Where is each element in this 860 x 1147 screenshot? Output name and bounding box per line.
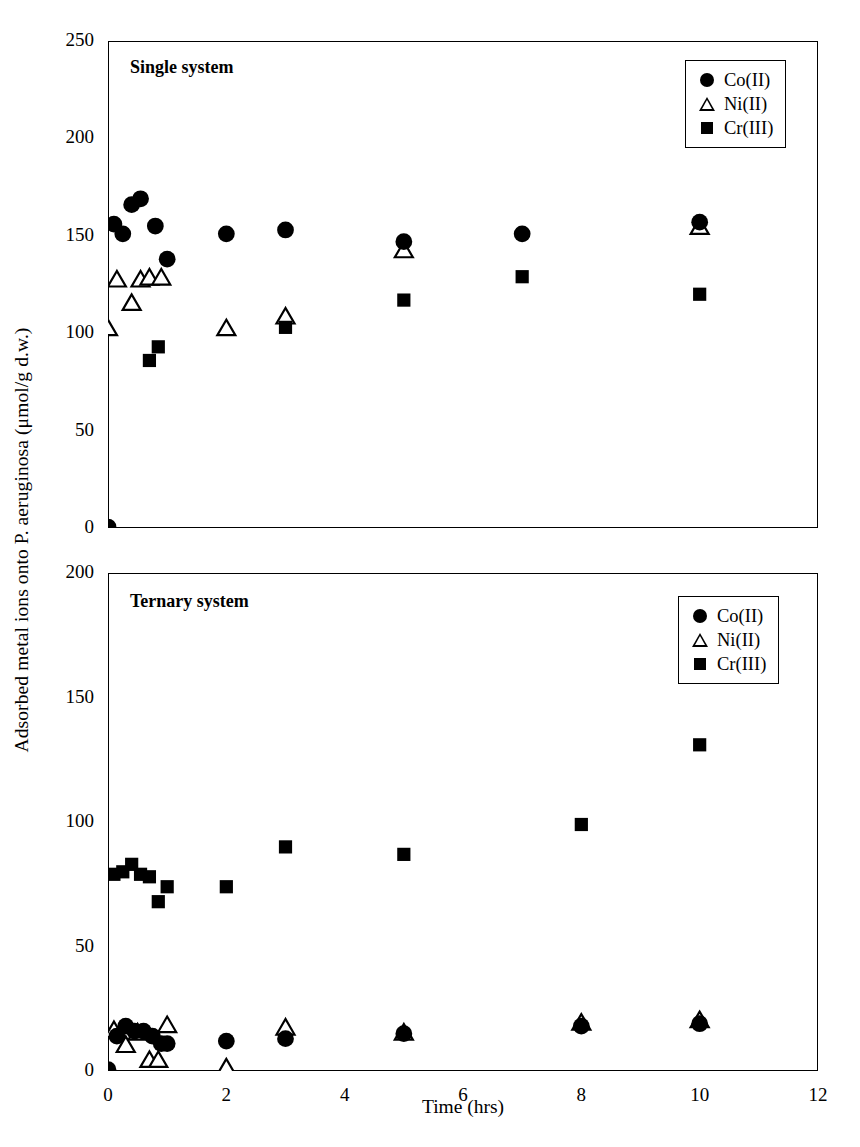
data-point-circle [691, 214, 708, 231]
legend-ternary: Co(II) Ni(II) Cr(III) [678, 596, 779, 684]
legend-label-co: Co(II) [724, 70, 770, 91]
data-point-square [143, 354, 156, 367]
data-point-square [397, 848, 410, 861]
y-tick-label: 250 [36, 29, 94, 51]
data-point-circle [132, 190, 149, 207]
filled-circle-icon [696, 73, 718, 87]
series-criii [143, 270, 706, 367]
y-tick-label: 150 [36, 686, 94, 708]
data-series-group [108, 190, 709, 528]
series-niii [108, 1012, 709, 1071]
series-criii [108, 738, 706, 908]
data-point-triangle [108, 320, 117, 336]
series-coii [108, 190, 708, 528]
legend-label-ni: Ni(II) [724, 94, 767, 115]
legend-label-ni: Ni(II) [717, 630, 760, 651]
data-point-square [152, 895, 165, 908]
data-point-circle [277, 222, 294, 239]
data-point-circle [218, 225, 235, 242]
data-point-triangle [217, 320, 235, 336]
legend-label-cr: Cr(III) [724, 118, 773, 139]
legend-item-ni: Ni(II) [696, 92, 773, 116]
y-tick-label: 50 [36, 935, 94, 957]
y-tick-label: 0 [36, 1059, 94, 1081]
data-point-square [279, 321, 292, 334]
x-axis-label: Time (hrs) [108, 1096, 818, 1118]
legend-item-cr: Cr(III) [689, 652, 766, 676]
data-point-circle [514, 225, 531, 242]
data-point-circle [218, 1033, 235, 1050]
filled-circle-icon [689, 609, 711, 623]
data-point-circle [108, 1061, 116, 1071]
y-tick-label: 200 [36, 561, 94, 583]
data-point-square [220, 880, 233, 893]
open-triangle-icon [689, 633, 711, 647]
y-tick-label: 50 [36, 419, 94, 441]
data-point-square [693, 738, 706, 751]
figure-root: Adsorbed metal ions onto P. aeruginosa (… [0, 0, 860, 1147]
data-point-triangle [217, 1059, 235, 1071]
legend-item-ni: Ni(II) [689, 628, 766, 652]
data-point-triangle [108, 271, 126, 287]
legend-item-co: Co(II) [689, 604, 766, 628]
y-tick-label: 0 [36, 516, 94, 538]
y-tick-label: 100 [36, 321, 94, 343]
data-point-triangle [123, 294, 141, 310]
data-point-triangle [158, 1017, 176, 1033]
legend-label-cr: Cr(III) [717, 654, 766, 675]
data-point-circle [159, 1035, 176, 1052]
data-point-square [516, 270, 529, 283]
data-point-circle [277, 1030, 294, 1047]
legend-item-cr: Cr(III) [696, 116, 773, 140]
legend-single: Co(II) Ni(II) Cr(III) [685, 60, 786, 148]
y-tick-label: 100 [36, 810, 94, 832]
panel-title-single: Single system [130, 57, 234, 78]
data-point-square [152, 340, 165, 353]
data-point-circle [395, 233, 412, 250]
filled-square-icon [689, 658, 711, 670]
data-point-square [575, 818, 588, 831]
y-tick-label: 200 [36, 126, 94, 148]
data-point-square [279, 840, 292, 853]
open-triangle-icon [696, 97, 718, 111]
filled-square-icon [696, 122, 718, 134]
data-point-square [143, 870, 156, 883]
data-point-square [397, 293, 410, 306]
y-tick-label: 150 [36, 224, 94, 246]
legend-label-co: Co(II) [717, 606, 763, 627]
legend-item-co: Co(II) [696, 68, 773, 92]
data-point-circle [108, 519, 116, 528]
data-series-group [108, 738, 709, 1071]
data-point-circle [114, 225, 131, 242]
panel-title-ternary: Ternary system [130, 591, 249, 612]
data-point-circle [159, 251, 176, 268]
data-point-circle [395, 1025, 412, 1042]
y-axis-label-container: Adsorbed metal ions onto P. aeruginosa (… [0, 0, 44, 1080]
panel-single-system: Single system Co(II) Ni(II) Cr(III) [108, 41, 818, 528]
data-point-square [161, 880, 174, 893]
data-point-square [693, 288, 706, 301]
data-point-circle [691, 1015, 708, 1032]
data-point-circle [147, 218, 164, 235]
panel-ternary-system: Ternary system Co(II) Ni(II) Cr(III) [108, 573, 818, 1071]
y-axis-label: Adsorbed metal ions onto P. aeruginosa (… [11, 328, 33, 753]
series-coii [108, 1015, 708, 1071]
data-point-circle [573, 1018, 590, 1035]
